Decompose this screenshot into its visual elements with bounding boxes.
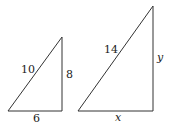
large-vertical-leg-label: y <box>157 52 163 63</box>
large-right-triangle <box>78 6 153 111</box>
triangles-diagram <box>0 0 170 124</box>
large-horizontal-leg-label: x <box>115 112 121 123</box>
small-horizontal-leg-label: 6 <box>33 113 40 124</box>
small-vertical-leg-label: 8 <box>66 69 73 80</box>
small-right-triangle <box>8 37 62 111</box>
large-hypotenuse-label: 14 <box>104 44 118 55</box>
small-hypotenuse-label: 10 <box>21 64 35 75</box>
